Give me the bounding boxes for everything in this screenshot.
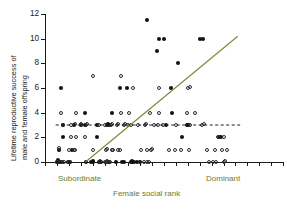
data-point-male — [59, 86, 63, 90]
data-point-female — [225, 148, 229, 152]
data-point-female — [147, 160, 151, 164]
data-point-female — [103, 123, 107, 127]
data-point-female — [83, 135, 87, 139]
data-point-female — [131, 86, 135, 90]
y-axis-tick — [41, 14, 45, 15]
data-point-female — [62, 160, 66, 164]
y-axis-tick-label: 0 — [0, 158, 39, 166]
data-point-male — [169, 86, 173, 90]
data-point-female — [205, 148, 209, 152]
data-point-female — [119, 111, 123, 115]
data-point-female — [129, 123, 133, 127]
y-axis-line — [45, 14, 46, 162]
data-point-male — [95, 135, 99, 139]
data-point-female — [167, 148, 171, 152]
data-point-female — [188, 85, 192, 89]
data-point-female — [179, 148, 183, 152]
data-point-female — [91, 148, 95, 152]
data-point-male — [162, 37, 166, 41]
data-point-female — [214, 160, 218, 164]
data-point-female — [110, 122, 114, 126]
data-point-female — [156, 123, 160, 127]
data-point-female — [59, 111, 63, 115]
data-point-male — [114, 160, 118, 164]
data-point-female — [216, 135, 220, 139]
data-point-female — [74, 135, 78, 139]
data-point-female — [105, 147, 109, 151]
x-axis-tick — [81, 162, 82, 166]
data-point-female — [136, 123, 140, 127]
x-axis-category-high: Dominant — [206, 174, 240, 183]
data-point-male — [91, 160, 95, 164]
data-point-male — [201, 37, 205, 41]
data-point-male — [157, 37, 161, 41]
data-point-female — [202, 122, 206, 126]
data-point-male — [170, 111, 174, 115]
data-point-female — [193, 111, 197, 115]
data-point-female — [67, 160, 71, 164]
data-point-male — [180, 135, 184, 139]
x-axis-tick — [247, 162, 248, 166]
data-point-male — [155, 49, 159, 53]
data-point-female — [150, 147, 154, 151]
data-point-male — [122, 160, 126, 164]
data-point-female — [67, 148, 71, 152]
x-axis-tick — [259, 162, 260, 166]
data-point-female — [91, 74, 95, 78]
data-point-female — [116, 122, 120, 126]
data-point-female — [220, 148, 224, 152]
data-point-female — [61, 123, 65, 127]
y-axis-tick-label: 8 — [0, 59, 39, 67]
x-axis-tick — [235, 162, 236, 166]
y-axis-tick — [41, 88, 45, 89]
x-axis-tick — [176, 162, 177, 166]
data-point-male — [125, 86, 129, 90]
data-point-female — [188, 123, 192, 127]
data-point-male — [61, 135, 65, 139]
x-axis-tick — [271, 162, 272, 166]
y-axis-tick-label: 2 — [0, 133, 39, 141]
plot-area — [45, 14, 283, 162]
data-point-female — [187, 148, 191, 152]
data-point-female — [157, 111, 161, 115]
y-axis-tick — [41, 63, 45, 64]
data-point-female — [157, 86, 161, 90]
data-point-female — [85, 122, 89, 126]
data-point-female — [222, 135, 226, 139]
data-point-male — [83, 111, 87, 115]
data-point-female — [139, 148, 143, 152]
x-axis-tick — [200, 162, 201, 166]
y-axis-tick-label: 12 — [0, 10, 39, 18]
data-point-female — [174, 123, 178, 127]
data-point-female — [148, 111, 152, 115]
data-point-female — [119, 74, 123, 78]
data-point-female — [108, 160, 112, 164]
y-axis-tick — [41, 113, 45, 114]
data-point-female — [161, 123, 165, 127]
x-axis-tick — [283, 162, 284, 166]
x-axis-title: Female social rank — [113, 189, 180, 198]
data-point-male — [145, 18, 149, 22]
y-axis-tick — [41, 137, 45, 138]
data-point-female — [144, 122, 148, 126]
data-point-female — [69, 135, 73, 139]
data-point-male — [164, 123, 168, 127]
data-point-male — [176, 61, 180, 65]
data-point-female — [185, 111, 189, 115]
data-point-female — [97, 123, 101, 127]
x-axis-tick — [45, 162, 46, 166]
data-point-female — [73, 148, 77, 152]
data-point-female — [74, 111, 78, 115]
data-point-male — [118, 86, 122, 90]
male-regression-line — [85, 36, 237, 162]
y-axis-tick-label: 4 — [0, 109, 39, 117]
data-point-female — [127, 111, 131, 115]
x-axis-tick — [164, 162, 165, 166]
scatter-chart-figure: Lifetime reproductive success of male an… — [0, 0, 287, 209]
y-axis-tick — [41, 39, 45, 40]
data-point-male — [84, 160, 88, 164]
x-axis-tick — [152, 162, 153, 166]
data-point-female — [173, 148, 177, 152]
data-point-female — [111, 148, 115, 152]
y-axis-tick-label: 10 — [0, 35, 39, 43]
